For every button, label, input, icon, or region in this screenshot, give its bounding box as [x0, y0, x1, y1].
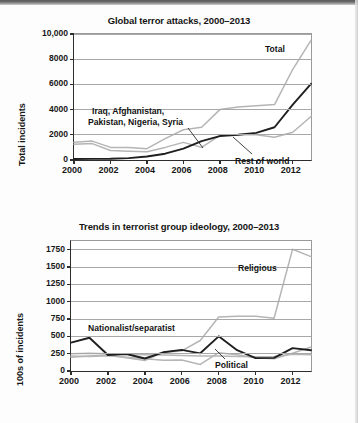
annotation-political: Political	[215, 360, 248, 370]
gridline	[71, 301, 311, 302]
y-tick-label: 1750	[23, 244, 65, 254]
x-tick-label: 2012	[281, 376, 301, 386]
y-tick-mark	[67, 318, 71, 319]
y-tick-mark	[67, 336, 71, 337]
page-top-rule	[0, 0, 358, 5]
x-tick-mark	[144, 371, 145, 375]
y-tick-mark	[67, 249, 71, 250]
x-tick-mark	[107, 371, 108, 375]
x-tick-label: 2010	[244, 376, 264, 386]
y-tick-mark	[67, 301, 71, 302]
x-tick-mark	[181, 371, 182, 375]
x-tick-label: 2004	[133, 376, 153, 386]
series-lines-bottom	[71, 241, 311, 371]
y-tick-mark	[67, 284, 71, 285]
y-tick-label: 250	[23, 348, 65, 358]
chart-global-terror-attacks: Global terror attacks, 2000–2013 Total i…	[0, 6, 358, 211]
y-tick-mark	[67, 266, 71, 267]
x-tick-mark	[255, 371, 256, 375]
y-tick-label: 1000	[23, 296, 65, 306]
x-tick-mark	[70, 371, 71, 375]
x-tick-mark	[218, 371, 219, 375]
x-tick-label: 2008	[207, 376, 227, 386]
annotation-nationalist: Nationalist/separatist	[88, 323, 175, 333]
figure-page: Global terror attacks, 2000–2013 Total i…	[0, 0, 358, 423]
y-tick-mark	[67, 353, 71, 354]
plot-area-bottom	[70, 240, 312, 372]
y-tick-label: 0	[23, 365, 65, 375]
x-tick-label: 2000	[59, 376, 79, 386]
x-tick-mark	[292, 371, 293, 375]
chart-terrorist-group-ideology: Trends in terrorist group ideology, 2000…	[0, 213, 358, 423]
chart-title-bottom: Trends in terrorist group ideology, 2000…	[0, 221, 358, 232]
gridline	[71, 284, 311, 285]
x-tick-label: 2006	[170, 376, 190, 386]
y-tick-label: 1250	[23, 278, 65, 288]
annotation-religious: Religious	[238, 263, 277, 273]
gridline	[71, 319, 311, 320]
gridline	[71, 336, 311, 337]
x-tick-label: 2002	[96, 376, 116, 386]
gridline	[71, 249, 311, 250]
y-tick-label: 500	[23, 330, 65, 340]
y-tick-label: 750	[23, 313, 65, 323]
annotation-hotspots-leader	[0, 6, 358, 216]
gridline	[71, 353, 311, 354]
y-tick-label: 1500	[23, 261, 65, 271]
